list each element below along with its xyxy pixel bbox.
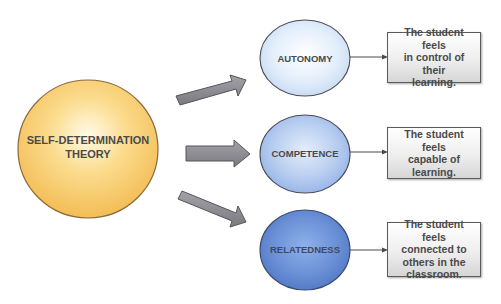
description-autonomy-text: The student feels in control of their le…: [392, 26, 476, 89]
node-relatedness-label: RELATEDNESS: [270, 244, 340, 255]
description-competence-text: The student feels capable of learning.: [392, 128, 476, 178]
description-box-competence: The student feels capable of learning.: [387, 127, 481, 179]
central-node-self-determination-theory: SELF-DETERMINATION THEORY: [18, 80, 158, 218]
description-relatedness-text: The student feels connected to others in…: [392, 218, 476, 281]
description-box-relatedness: The student feels connected to others in…: [387, 222, 481, 277]
node-competence-label: COMPETENCE: [271, 148, 338, 159]
node-competence: COMPETENCE: [260, 115, 350, 193]
arrow-to-relatedness: [178, 191, 246, 227]
node-autonomy: AUTONOMY: [260, 20, 350, 96]
connector-relatedness: [350, 248, 388, 253]
description-box-autonomy: The student feels in control of their le…: [387, 32, 481, 83]
connector-autonomy: [350, 55, 388, 60]
node-relatedness: RELATEDNESS: [260, 210, 350, 290]
node-autonomy-label: AUTONOMY: [277, 53, 333, 64]
connector-competence: [350, 150, 388, 155]
central-node-label-line1: SELF-DETERMINATION: [27, 134, 150, 146]
arrow-to-competence: [186, 140, 250, 167]
arrow-to-autonomy: [176, 75, 246, 105]
central-node-label-line2: THEORY: [65, 148, 111, 160]
